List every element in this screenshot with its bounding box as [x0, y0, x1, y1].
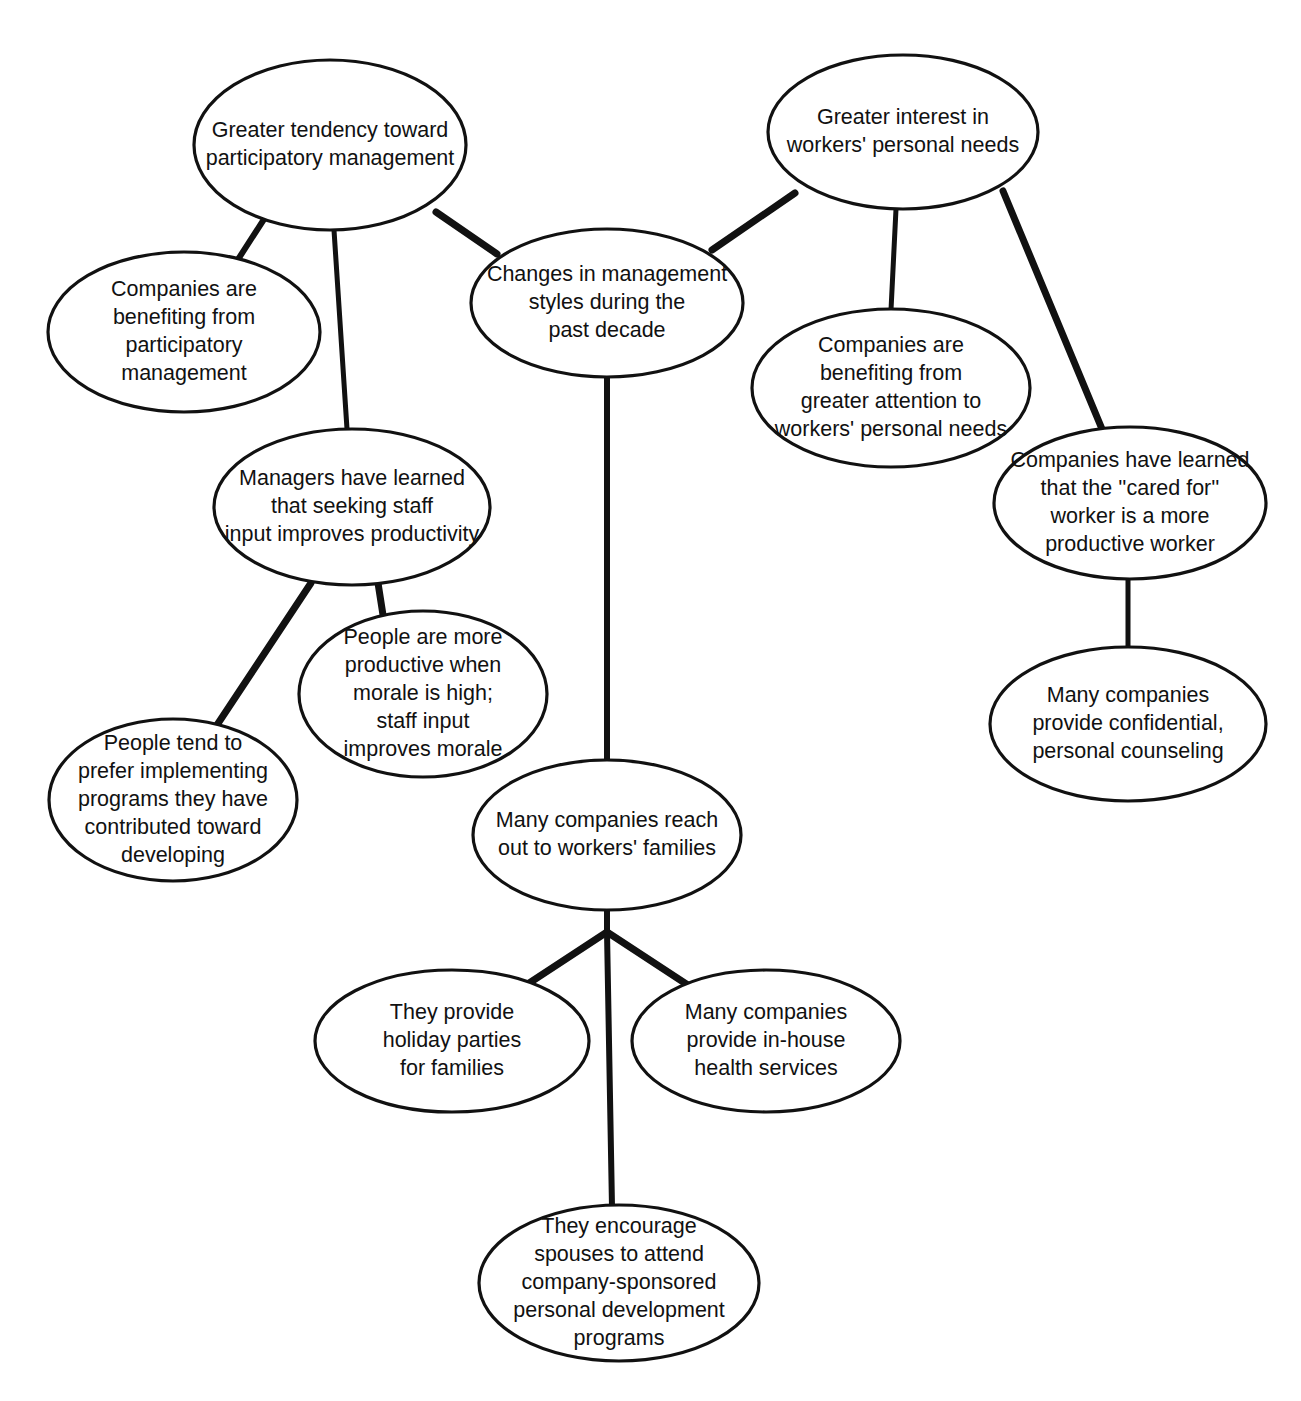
- concept-node-counseling[interactable]: Many companiesprovide confidential,perso…: [990, 647, 1266, 801]
- node-label-line: Changes in management: [487, 262, 727, 286]
- connector-line: [607, 932, 612, 1207]
- node-label-line: Many companies: [1047, 683, 1210, 707]
- node-label-line: management: [121, 361, 247, 385]
- node-label-line: participatory management: [206, 146, 455, 170]
- concept-node-health-services[interactable]: Many companiesprovide in-househealth ser…: [632, 970, 900, 1112]
- node-label-line: spouses to attend: [534, 1242, 704, 1266]
- connector-line: [217, 583, 311, 725]
- node-label-line: Companies are: [111, 276, 257, 300]
- node-label-line: Many companies: [685, 1000, 848, 1024]
- concept-node-holiday-parties[interactable]: They provideholiday partiesfor families: [315, 970, 589, 1112]
- node-label-line: programs: [574, 1326, 665, 1350]
- concept-node-morale[interactable]: People are moreproductive whenmorale is …: [299, 611, 547, 777]
- node-label-line: provide confidential,: [1032, 711, 1223, 735]
- node-label-line: contributed toward: [85, 815, 262, 839]
- node-label-line: out to workers' families: [498, 836, 716, 860]
- node-label-line: prefer implementing: [78, 759, 268, 783]
- concept-node-cared-for-worker[interactable]: Companies have learnedthat the ''cared f…: [994, 427, 1266, 579]
- node-label-line: workers' personal needs: [774, 417, 1007, 441]
- node-label-line: input improves productivity: [225, 522, 480, 546]
- node-label-line: health services: [694, 1056, 837, 1080]
- connector-line: [378, 583, 383, 615]
- node-label-line: that seeking staff: [271, 494, 433, 518]
- node-label-line: workers' personal needs: [786, 133, 1019, 157]
- node-label-line: that the ''cared for'': [1041, 476, 1220, 500]
- node-label-counseling: Many companiesprovide confidential,perso…: [1032, 683, 1223, 763]
- node-label-line: People are more: [344, 624, 503, 648]
- node-label-line: programs they have: [78, 787, 268, 811]
- concept-node-companies-benefit-attention[interactable]: Companies arebenefiting fromgreater atte…: [752, 309, 1030, 467]
- node-label-line: holiday parties: [383, 1028, 522, 1052]
- connector-line: [891, 209, 896, 310]
- node-label-line: People tend to: [104, 730, 243, 754]
- concept-node-personal-needs[interactable]: Greater interest inworkers' personal nee…: [768, 55, 1038, 209]
- node-label-line: benefiting from: [113, 305, 255, 329]
- node-label-line: They encourage: [541, 1213, 696, 1237]
- node-label-line: for families: [400, 1056, 504, 1080]
- concept-node-companies-benefit-participatory[interactable]: Companies arebenefiting fromparticipator…: [48, 252, 320, 412]
- node-label-morale: People are moreproductive whenmorale is …: [344, 624, 503, 761]
- node-label-line: productive when: [345, 653, 502, 677]
- node-label-health-services: Many companiesprovide in-househealth ser…: [685, 1000, 848, 1080]
- node-label-line: Greater interest in: [817, 105, 989, 129]
- node-label-line: past decade: [548, 318, 665, 342]
- concept-map-container: Changes in managementstyles during thepa…: [0, 0, 1301, 1401]
- connector-line: [712, 193, 795, 250]
- node-label-line: Many companies reach: [496, 808, 718, 832]
- node-label-line: company-sponsored: [522, 1270, 717, 1294]
- node-label-line: developing: [121, 843, 225, 867]
- node-label-line: provide in-house: [687, 1028, 846, 1052]
- concept-node-managers-learned[interactable]: Managers have learnedthat seeking staffi…: [214, 429, 490, 585]
- node-label-line: productive worker: [1045, 532, 1215, 556]
- node-label-line: personal counseling: [1032, 739, 1223, 763]
- node-label-line: They provide: [390, 1000, 514, 1024]
- node-label-line: participatory: [125, 333, 242, 357]
- node-label-line: Companies are: [818, 332, 964, 356]
- node-label-line: styles during the: [529, 290, 686, 314]
- node-label-line: greater attention to: [801, 389, 982, 413]
- concept-node-center[interactable]: Changes in managementstyles during thepa…: [471, 229, 743, 377]
- concept-node-prefer-implementing[interactable]: People tend toprefer implementingprogram…: [49, 719, 297, 881]
- node-label-line: staff input: [377, 709, 470, 733]
- concept-map-canvas: Changes in managementstyles during thepa…: [0, 0, 1301, 1401]
- node-label-line: personal development: [513, 1298, 725, 1322]
- connector-line: [334, 230, 347, 429]
- concept-node-participatory[interactable]: Greater tendency towardparticipatory man…: [194, 60, 466, 230]
- node-label-line: Companies have learned: [1010, 447, 1249, 471]
- node-label-line: worker is a more: [1050, 504, 1210, 528]
- concept-node-spouses[interactable]: They encouragespouses to attendcompany-s…: [479, 1205, 759, 1361]
- node-label-holiday-parties: They provideholiday partiesfor families: [383, 1000, 522, 1080]
- connector-line: [436, 212, 497, 254]
- node-label-line: Greater tendency toward: [212, 118, 449, 142]
- node-label-line: Managers have learned: [239, 466, 465, 490]
- concept-node-reach-out-families[interactable]: Many companies reachout to workers' fami…: [473, 760, 741, 910]
- node-label-line: benefiting from: [820, 361, 962, 385]
- node-label-line: improves morale: [344, 737, 503, 761]
- node-label-line: morale is high;: [353, 681, 493, 705]
